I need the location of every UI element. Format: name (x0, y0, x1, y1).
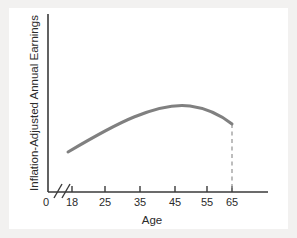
x-axis-tick-label-25: 25 (99, 196, 111, 208)
x-axis-tick-label-35: 35 (134, 196, 146, 208)
age-earnings-chart: 0 18 25 35 45 55 65 Age Inflation-Adjust… (0, 0, 297, 238)
x-axis-tick-label-45: 45 (169, 196, 181, 208)
x-axis-title: Age (142, 214, 162, 226)
x-axis-tick-label-18: 18 (66, 196, 78, 208)
y-axis-title: Inflation-Adjusted Annual Earnings (28, 15, 40, 191)
x-axis-ticks (72, 186, 232, 192)
chart-figure: 0 18 25 35 45 55 65 Age Inflation-Adjust… (0, 0, 297, 238)
x-axis-origin-label: 0 (43, 196, 49, 208)
earnings-curve (68, 105, 232, 152)
x-axis-tick-label-65: 65 (226, 196, 238, 208)
x-axis-tick-label-55: 55 (201, 196, 213, 208)
